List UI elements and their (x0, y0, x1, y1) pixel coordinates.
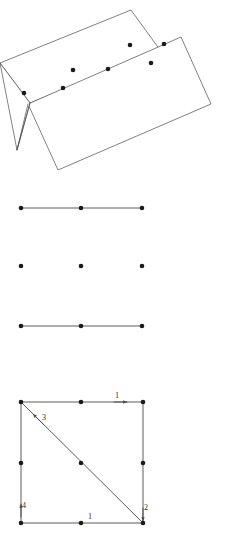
dot-grid-dots (19, 206, 145, 329)
square-dot-bottom-center (79, 521, 84, 526)
grid-dot-top-left (19, 206, 24, 211)
sheet-dot-5 (128, 43, 133, 48)
square-dot-right-middle (141, 461, 146, 466)
numbered-square-figure: 13421 (19, 391, 148, 525)
square-dot-top-center (79, 400, 84, 405)
edge-label-bottom: 1 (88, 512, 92, 521)
square-dot-left-middle (19, 461, 24, 466)
sheet-dot-3 (71, 68, 76, 73)
grid-dot-bottom-right (140, 324, 145, 329)
grid-dot-top-center (79, 206, 84, 211)
figure-canvas: 13421 (0, 0, 228, 551)
grid-dot-middle-right (140, 264, 145, 269)
edge-label-top: 1 (115, 391, 119, 400)
square-dot-bottom-left (19, 521, 24, 526)
grid-dot-bottom-left (19, 324, 24, 329)
sheet-dot-1 (22, 91, 27, 96)
edge-label-diagonal: 3 (42, 413, 46, 422)
square-dot-top-right (141, 400, 146, 405)
sheet-dot-4 (106, 67, 111, 72)
folded-sheet-figure (0, 10, 211, 170)
square-dot-top-left (19, 400, 24, 405)
arrow-top-edge-head (123, 400, 127, 403)
arrow-top-edge (114, 400, 127, 403)
numbered-square-labels: 13421 (22, 391, 148, 521)
square-dot-center (79, 461, 84, 466)
sheet-dot-6 (162, 42, 167, 47)
figure-sheet: 13421 (0, 0, 228, 551)
edge-label-right: 2 (144, 503, 148, 512)
grid-dot-middle-center (79, 264, 84, 269)
arrow-right-edge-head (141, 517, 144, 521)
folded-sheet-polygons (0, 10, 211, 170)
grid-dot-top-right (140, 206, 145, 211)
grid-dot-bottom-center (79, 324, 84, 329)
dot-grid-figure (19, 206, 145, 329)
edge-label-left: 4 (22, 501, 26, 510)
square-dot-bottom-right (141, 521, 146, 526)
sheet-dot-2 (61, 86, 66, 91)
grid-dot-middle-left (19, 264, 24, 269)
sheet-dot-7 (149, 61, 154, 66)
